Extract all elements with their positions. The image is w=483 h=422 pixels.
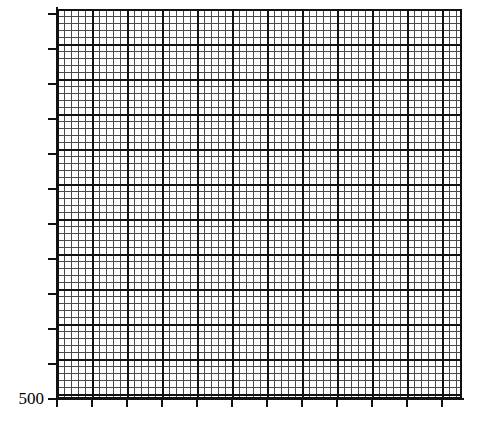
- y-axis-tick: [48, 398, 56, 400]
- y-axis-tick: [48, 13, 56, 15]
- y-axis-tick: [48, 153, 56, 155]
- y-axis-tick: [48, 328, 56, 330]
- x-axis-tick: [196, 399, 198, 407]
- figure-canvas: 500: [0, 0, 483, 422]
- y-axis-tick: [48, 48, 56, 50]
- x-axis-tick: [231, 399, 233, 407]
- x-axis-tick: [161, 399, 163, 407]
- x-axis-tick: [91, 399, 93, 407]
- y-axis-spine: [56, 7, 58, 401]
- x-axis-tick: [406, 399, 408, 407]
- x-axis-tick: [126, 399, 128, 407]
- x-axis-tick: [56, 399, 58, 407]
- y-axis-tick: [48, 83, 56, 85]
- x-axis-tick: [266, 399, 268, 407]
- y-axis-tick: [48, 118, 56, 120]
- y-axis-tick: [48, 223, 56, 225]
- x-axis-tick: [441, 399, 443, 407]
- y-axis-tick: [48, 293, 56, 295]
- plot-area: [57, 9, 462, 399]
- grid-edge-right: [460, 9, 462, 399]
- y-axis-tick-label-500: 500: [8, 390, 44, 407]
- grid-edge-top: [57, 9, 462, 11]
- grid-major-lines: [57, 9, 462, 399]
- x-axis-tick: [301, 399, 303, 407]
- y-axis-tick: [48, 258, 56, 260]
- y-axis-tick: [48, 363, 56, 365]
- x-axis-tick: [336, 399, 338, 407]
- x-axis-spine: [56, 398, 464, 400]
- x-axis-tick: [371, 399, 373, 407]
- y-axis-tick: [48, 188, 56, 190]
